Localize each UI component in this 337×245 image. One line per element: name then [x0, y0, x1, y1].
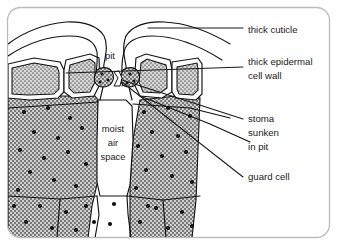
callout-stoma-line1: stoma [248, 113, 275, 124]
figure-root: pit moist air space thick cuticle thick … [0, 0, 337, 245]
stoma-diagram: pit moist air space thick cuticle thick … [0, 0, 337, 245]
callout-thick-cuticle: thick cuticle [248, 24, 298, 35]
label-air: air [108, 137, 118, 148]
callout-thick-epidermal-line1: thick epidermal [248, 56, 313, 67]
guard-cell-left [94, 68, 113, 87]
label-space: space [100, 151, 125, 162]
epidermal-cell-inner-left-cytoplasm [69, 59, 95, 93]
label-pit: pit [105, 50, 115, 61]
epidermal-cell-left-cytoplasm [12, 63, 59, 95]
callout-guard-cell: guard cell [248, 171, 290, 182]
label-moist: moist [102, 123, 125, 134]
callout-thick-epidermal-line2: cell wall [248, 70, 282, 81]
callout-stoma-line3: in pit [248, 141, 269, 152]
mesophyll-cell-left [8, 96, 98, 238]
epidermal-cell-inner-right-cytoplasm [139, 59, 167, 93]
epidermal-cell-right-cytoplasm [177, 63, 198, 95]
callout-stoma-line2: sunken [248, 127, 279, 138]
